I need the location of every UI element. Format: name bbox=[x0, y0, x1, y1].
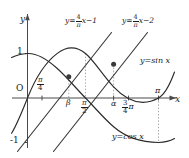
sin-curve-label: y=sin x bbox=[140, 57, 170, 65]
line-4x-over-pi-minus-1 bbox=[18, 33, 112, 152]
y-axis bbox=[25, 14, 30, 148]
x-tick-label-beta: β bbox=[66, 99, 71, 107]
x-tick-label-alpha: α bbox=[111, 100, 116, 108]
origin-label: O bbox=[16, 84, 23, 93]
y-tick-label-minus-1: -1 bbox=[10, 136, 19, 145]
marked-point-beta bbox=[66, 74, 71, 79]
y-axis-arrow bbox=[25, 14, 30, 20]
marked-point-alpha bbox=[111, 62, 116, 67]
line2-prefix: y= bbox=[122, 16, 133, 25]
half-pi-denominator: 2 bbox=[81, 107, 88, 115]
line1-label: y= 4 π x−1 bbox=[65, 14, 97, 28]
quarter-pi-numerator: π bbox=[37, 77, 44, 84]
three-quarter-pi-suffix: π bbox=[128, 102, 133, 111]
x-axis-label: x bbox=[175, 95, 180, 104]
cos-curve-label: y=cos x bbox=[112, 133, 144, 141]
line2-suffix: x−2 bbox=[139, 16, 154, 25]
y-tick-label-1: 1 bbox=[17, 47, 23, 56]
line1-prefix: y= bbox=[65, 16, 76, 25]
x-tick-label-quarter-pi: π 4 bbox=[37, 77, 44, 92]
half-pi-numerator: π bbox=[81, 100, 88, 107]
line2-label: y= 4 π x−2 bbox=[122, 14, 154, 28]
quarter-pi-denominator: 4 bbox=[37, 84, 44, 92]
x-tick-label-three-quarter-pi: 3 4 π bbox=[122, 100, 134, 115]
x-tick-label-pi: π bbox=[155, 87, 160, 95]
math-figure: y x O 1 -1 π 4 β π 2 α 3 4 π π y=sin x y… bbox=[0, 0, 189, 158]
x-tick-label-half-pi: π 2 bbox=[81, 100, 88, 115]
line1-suffix: x−1 bbox=[82, 16, 97, 25]
y-axis-label: y bbox=[20, 15, 25, 24]
